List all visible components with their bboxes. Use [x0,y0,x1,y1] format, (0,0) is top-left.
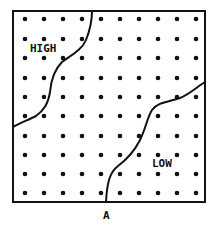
sample-dot [99,191,104,196]
sample-dot [156,191,161,196]
sample-dot [23,191,28,196]
sample-dot [42,37,47,42]
sample-dot [23,76,28,81]
sample-dot [99,95,104,100]
sample-dot [80,134,85,139]
sample-dot [156,56,161,61]
sample-dot [80,191,85,196]
sample-dot [137,153,142,158]
sample-dot [194,17,199,22]
sample-dot [23,95,28,100]
sample-dot [80,17,85,22]
sample-dot [80,95,85,100]
sample-dot [61,17,66,22]
sample-dot [42,56,47,61]
sample-dot [175,56,180,61]
sample-dot [61,76,66,81]
sample-dot [80,76,85,81]
panel-label: A [103,209,110,222]
sample-dot [42,134,47,139]
sample-dot [99,114,104,119]
low-region-label: LOW [152,157,172,170]
sample-dot [118,191,123,196]
high-boundary-curve [13,11,92,127]
sample-dot [175,17,180,22]
sample-dot [137,191,142,196]
sample-dot [61,134,66,139]
sample-dot [175,37,180,42]
sample-dot [156,172,161,177]
sample-dot [99,172,104,177]
sample-dot [80,153,85,158]
sample-dot [175,114,180,119]
sample-dot [137,114,142,119]
sample-dot [23,17,28,22]
sample-dot [99,56,104,61]
sample-dot [194,134,199,139]
sample-dot [194,95,199,100]
sample-dot [137,172,142,177]
sample-dot [137,17,142,22]
sample-dot [175,172,180,177]
sample-dot [156,17,161,22]
sample-dot [156,134,161,139]
sample-dot [80,37,85,42]
sample-dot [42,95,47,100]
sample-dot [194,191,199,196]
sample-dot [99,37,104,42]
sample-dot [194,56,199,61]
sample-dot [61,37,66,42]
sample-dot [23,114,28,119]
sample-dot [42,191,47,196]
sample-dot [42,172,47,177]
sample-dot [156,95,161,100]
sample-dot [99,17,104,22]
sample-dot [99,134,104,139]
sample-dot [23,37,28,42]
sample-dot [99,76,104,81]
contour-diagram: HIGH LOW A [0,0,214,231]
sample-dot [42,76,47,81]
sample-dot [137,56,142,61]
sample-dot [137,37,142,42]
sample-dot [118,153,123,158]
sample-dot [80,56,85,61]
sample-dot [23,56,28,61]
sample-dot [194,172,199,177]
sample-dot [118,114,123,119]
sample-dot [42,17,47,22]
sample-dot [23,153,28,158]
sample-dot [156,37,161,42]
sample-dot [23,172,28,177]
sample-dot [42,114,47,119]
sample-dot [80,114,85,119]
sample-dot [194,114,199,119]
sample-dot [61,114,66,119]
sample-dot [175,76,180,81]
sample-dot [175,153,180,158]
sample-dot [137,76,142,81]
sample-dot [118,172,123,177]
sample-dot [42,153,47,158]
sample-dot [118,17,123,22]
high-region-label: HIGH [30,42,57,55]
sample-dot [175,134,180,139]
sample-dot [61,191,66,196]
sample-dot [61,172,66,177]
sample-dot [118,56,123,61]
sample-dot [61,153,66,158]
sample-dot [175,191,180,196]
sample-dot [61,95,66,100]
sample-dot [23,134,28,139]
sample-dot [118,37,123,42]
sample-dot [194,37,199,42]
sample-dot [194,76,199,81]
sample-dot [118,76,123,81]
sample-dot [137,95,142,100]
sample-dot [118,134,123,139]
sample-dot [80,172,85,177]
sample-dot [99,153,104,158]
low-boundary-curve [106,82,205,202]
sample-dot [118,95,123,100]
sample-dot [156,114,161,119]
